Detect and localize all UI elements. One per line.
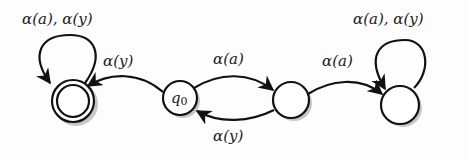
label-mid-to-q0: α(y) xyxy=(213,127,243,145)
edge-loop-accept xyxy=(40,35,96,83)
label-q0-to-accept: α(y) xyxy=(103,52,133,70)
edge-mid-to-right xyxy=(308,82,382,94)
state-mid xyxy=(273,82,309,118)
edge-mid-to-q0 xyxy=(197,110,274,120)
accept-state-inner xyxy=(57,85,89,117)
diagram-svg: α(a), α(y) α(y) α(a) α(y) α(a) α(a), α(y… xyxy=(0,0,468,158)
edge-q0-to-accept xyxy=(88,76,163,92)
state-right xyxy=(381,86,419,124)
label-loop-accept: α(a), α(y) xyxy=(22,10,93,28)
label-mid-to-right: α(a) xyxy=(322,52,353,70)
label-loop-right: α(a), α(y) xyxy=(353,10,424,28)
edge-q0-to-mid xyxy=(194,76,273,90)
automaton-diagram: α(a), α(y) α(y) α(a) α(y) α(a) α(a), α(y… xyxy=(0,0,468,158)
label-q0-to-mid: α(a) xyxy=(213,50,244,68)
edge-loop-right xyxy=(376,40,426,89)
